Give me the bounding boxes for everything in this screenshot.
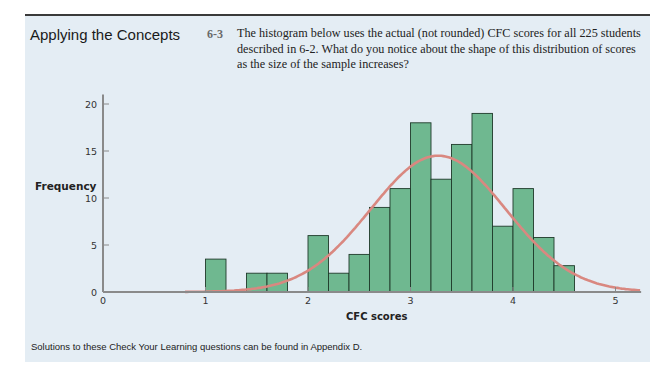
y-tick-label: 15 xyxy=(85,146,97,157)
histogram-chart: 05101520012345 xyxy=(0,0,669,383)
histogram-bar xyxy=(472,113,493,292)
y-tick-label: 0 xyxy=(91,287,97,298)
y-axis-label: Frequency xyxy=(35,180,96,192)
x-tick-label: 4 xyxy=(510,295,516,306)
x-tick-label: 2 xyxy=(305,295,311,306)
footer-note: Solutions to these Check Your Learning q… xyxy=(31,341,362,352)
histogram-bar xyxy=(349,254,370,292)
x-axis-label: CFC scores xyxy=(346,311,407,322)
histogram-bar xyxy=(554,266,575,292)
histogram-bar xyxy=(452,144,473,292)
x-tick-label: 5 xyxy=(612,295,618,306)
histogram-bar xyxy=(493,226,514,292)
histogram-bar xyxy=(206,259,227,292)
histogram-bar xyxy=(431,179,452,292)
histogram-bar xyxy=(411,123,432,292)
x-tick-label: 1 xyxy=(202,295,208,306)
y-tick-label: 5 xyxy=(91,240,97,251)
histogram-bar xyxy=(329,273,350,292)
histogram-bar xyxy=(513,189,534,292)
histogram-bar xyxy=(390,189,411,292)
histogram-bars xyxy=(206,113,575,292)
histogram-bar xyxy=(370,207,391,292)
x-tick-label: 0 xyxy=(100,295,106,306)
y-tick-label: 20 xyxy=(85,99,97,110)
x-tick-label: 3 xyxy=(407,295,413,306)
y-tick-label: 10 xyxy=(85,193,97,204)
